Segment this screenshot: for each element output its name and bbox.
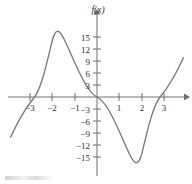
- y-tick-label-minus-6: −6: [80, 117, 90, 127]
- y-tick-label-minus-12: −12: [76, 141, 90, 151]
- x-tick-label-minus-1: −1: [70, 103, 80, 113]
- function-graph-figure: f(x) 3 6 9 12 15 −3 −6 −9 −12 −15 −3 −2 …: [0, 0, 192, 184]
- y-tick-label-minus-3: −3: [80, 105, 90, 115]
- y-tick-label-minus-9: −9: [80, 129, 90, 139]
- y-tick-label-3: 3: [86, 81, 91, 91]
- x-tick-label-1: 1: [117, 103, 122, 113]
- y-axis-label: f(x): [91, 5, 104, 16]
- y-tick-label-15: 15: [81, 33, 91, 43]
- y-tick-label-minus-15: −15: [76, 153, 91, 163]
- x-tick-label-minus-2: −2: [47, 103, 57, 113]
- y-tick-label-12: 12: [81, 45, 90, 55]
- x-tick-label-2: 2: [140, 103, 145, 113]
- plot-canvas: f(x) 3 6 9 12 15 −3 −6 −9 −12 −15 −3 −2 …: [0, 0, 192, 184]
- x-axis-arrow-icon: [184, 93, 190, 100]
- y-tick-label-9: 9: [86, 57, 91, 67]
- x-tick-label-3: 3: [162, 103, 167, 113]
- cropped-caption-remnant: [5, 176, 53, 180]
- y-tick-label-6: 6: [86, 69, 91, 79]
- x-tick-label-minus-3: −3: [25, 103, 35, 113]
